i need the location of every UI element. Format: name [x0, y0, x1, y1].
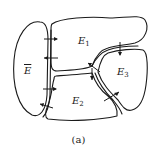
arrow-e2-to-ebar [40, 103, 53, 108]
label-e3: E3 [117, 67, 129, 79]
arrow-e1-to-e3 [118, 42, 122, 56]
region-e3-outline [98, 49, 147, 110]
label-e2: E2 [72, 96, 84, 108]
label-e1: E1 [78, 36, 90, 48]
label-e-bar: E [24, 66, 31, 76]
figure-caption: (a) [0, 134, 157, 145]
arrow-junction-bottom [90, 68, 94, 80]
region-e1-outline [51, 17, 147, 71]
